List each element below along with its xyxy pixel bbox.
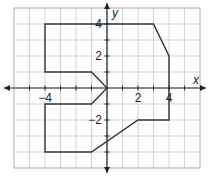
y-axis-up-arrow-icon (104, 3, 110, 9)
x-axis-right-arrow-icon (200, 85, 206, 91)
y-axis-label: y (111, 6, 119, 20)
x-axis-label: x (192, 73, 200, 87)
y-tick-label: 2 (95, 49, 102, 63)
coordinate-plane: −42442−2 x y (0, 0, 210, 178)
coordinate-plane-svg: −42442−2 x y (0, 0, 210, 178)
y-axis-down-arrow-icon (104, 167, 110, 173)
x-axis-left-arrow-icon (4, 85, 10, 91)
x-tick-label: 2 (135, 91, 142, 105)
y-tick-label: −2 (88, 113, 102, 127)
y-tick-label: 4 (95, 17, 102, 31)
x-tick-label: −4 (38, 91, 52, 105)
x-tick-label: 4 (166, 91, 173, 105)
